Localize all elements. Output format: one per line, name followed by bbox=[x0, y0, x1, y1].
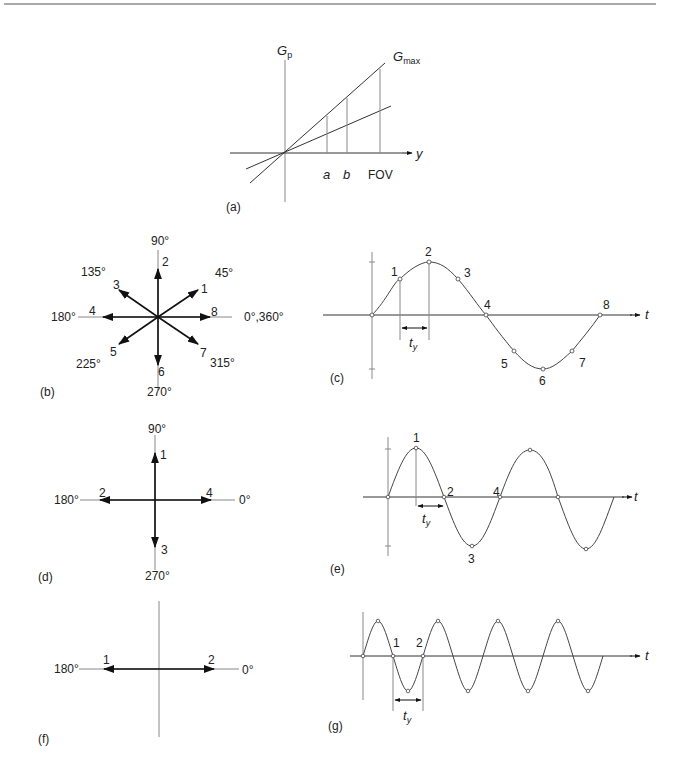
panel-f-label: (f) bbox=[38, 733, 49, 745]
angle-45: 45° bbox=[215, 267, 233, 279]
panel-d-label: (d) bbox=[38, 571, 53, 583]
e-point-1: 1 bbox=[413, 432, 420, 444]
d-angle-270: 270° bbox=[145, 570, 170, 582]
g-t-axis-label: t bbox=[645, 649, 649, 662]
d-vector-2-label: 2 bbox=[99, 487, 106, 499]
panel-e-label: (e) bbox=[330, 563, 345, 575]
f-angle-180: 180° bbox=[54, 663, 79, 675]
c-ty-label: ty bbox=[409, 336, 417, 349]
vector-7 bbox=[158, 317, 198, 344]
vector-1-label: 1 bbox=[201, 283, 208, 295]
c-point-3: 3 bbox=[464, 267, 471, 279]
angle-0-360: 0°,360° bbox=[244, 311, 284, 323]
gmax-label: Gmax bbox=[393, 50, 420, 63]
g-point-2: 2 bbox=[416, 637, 423, 649]
g-point-1: 1 bbox=[393, 637, 400, 649]
vector-5 bbox=[119, 317, 158, 344]
d-vector-1-label: 1 bbox=[160, 449, 167, 461]
vector-5-label: 5 bbox=[110, 346, 117, 358]
gmax-line bbox=[250, 63, 385, 183]
panel-a-label: (a) bbox=[226, 201, 241, 213]
c-t-axis-label: t bbox=[645, 308, 649, 321]
f-vector-1-label: 1 bbox=[103, 654, 110, 666]
panel-c bbox=[323, 252, 640, 379]
panel-d bbox=[80, 435, 235, 570]
c-point-1: 1 bbox=[391, 266, 398, 278]
d-angle-180: 180° bbox=[54, 494, 79, 506]
c-point-2: 2 bbox=[425, 246, 432, 258]
c-point-8: 8 bbox=[603, 299, 610, 311]
f-vector-2-label: 2 bbox=[208, 654, 215, 666]
angle-315: 315° bbox=[210, 357, 235, 369]
e-point-4: 4 bbox=[493, 486, 500, 498]
panel-g bbox=[350, 612, 640, 711]
angle-180: 180° bbox=[51, 311, 76, 323]
tick-fov-label: FOV bbox=[368, 169, 393, 181]
angle-135: 135° bbox=[81, 266, 106, 278]
angle-270: 270° bbox=[147, 386, 172, 398]
vector-3-label: 3 bbox=[113, 279, 120, 291]
panel-f bbox=[79, 601, 239, 737]
gradient-line bbox=[246, 106, 391, 169]
gp-axis-label: Gp bbox=[277, 44, 292, 57]
vector-1 bbox=[158, 290, 198, 317]
panel-b-label: (b) bbox=[40, 386, 55, 398]
vector-3 bbox=[119, 290, 158, 317]
angle-90: 90° bbox=[151, 235, 169, 247]
e-point-3: 3 bbox=[468, 553, 475, 565]
panel-c-label: (c) bbox=[330, 372, 344, 384]
d-angle-0: 0° bbox=[239, 494, 250, 506]
panel-g-label: (g) bbox=[328, 720, 343, 732]
e-point-2: 2 bbox=[447, 486, 454, 498]
c-point-6: 6 bbox=[539, 375, 546, 387]
g-ty-label: ty bbox=[403, 709, 411, 722]
c-point-7: 7 bbox=[579, 357, 586, 369]
d-vector-3-label: 3 bbox=[161, 544, 168, 556]
f-angle-0: 0° bbox=[242, 664, 253, 676]
d-angle-90: 90° bbox=[148, 423, 166, 435]
angle-225: 225° bbox=[76, 358, 101, 370]
c-point-5: 5 bbox=[501, 358, 508, 370]
vector-7-label: 7 bbox=[200, 347, 207, 359]
vector-4-label: 4 bbox=[89, 305, 96, 317]
e-t-axis-label: t bbox=[634, 490, 638, 503]
y-axis-label: y bbox=[416, 147, 423, 160]
tick-a-label: a bbox=[323, 168, 330, 181]
vector-2-label: 2 bbox=[162, 256, 169, 268]
c-point-4: 4 bbox=[484, 299, 491, 311]
vector-8-label: 8 bbox=[211, 306, 218, 318]
e-ty-label: ty bbox=[422, 512, 430, 525]
vector-6-label: 6 bbox=[158, 366, 165, 378]
tick-b-label: b bbox=[343, 168, 350, 181]
d-vector-4-label: 4 bbox=[206, 487, 213, 499]
